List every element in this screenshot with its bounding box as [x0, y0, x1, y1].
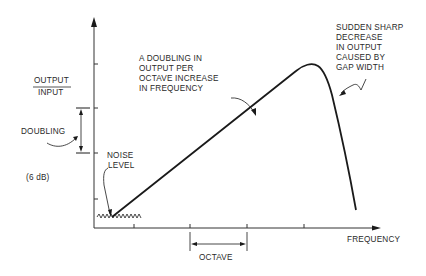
slope-pointer-arrow	[231, 98, 254, 112]
x-axis-arrow-icon	[372, 226, 381, 231]
noise-pointer-arrow	[104, 168, 110, 214]
arrow-up-icon	[79, 109, 83, 115]
gap-note-line1: SUDDEN SHARP	[336, 23, 403, 33]
gap-pointer-arrow	[341, 79, 366, 93]
y-axis-label-output: OUTPUT	[34, 76, 69, 86]
arrow-left-icon	[191, 242, 197, 246]
doubling-pointer-arrow	[47, 138, 76, 146]
arrow-head-icon	[339, 90, 346, 96]
y-axis-label-input: INPUT	[38, 88, 64, 98]
slope-note-line1: A DOUBLING IN	[139, 54, 202, 64]
noise-label-line1: NOISE	[107, 151, 133, 161]
gap-note-line2: DECREASE	[336, 33, 383, 43]
octave-label: OCTAVE	[199, 253, 233, 263]
gap-note-line3: IN OUTPUT	[336, 43, 382, 53]
x-axis-label: FREQUENCY	[347, 235, 400, 245]
gap-note-line4: CAUSED BY	[336, 53, 385, 63]
six-db-label: (6 dB)	[26, 173, 50, 183]
noise-level-zigzag	[97, 214, 141, 218]
arrow-right-icon	[240, 242, 246, 246]
slope-note-line4: IN FREQUENCY	[139, 84, 203, 94]
y-axis	[91, 17, 98, 228]
arrow-down-icon	[79, 146, 83, 152]
x-axis	[94, 224, 381, 231]
gap-note-line5: GAP WIDTH	[336, 63, 384, 73]
y-axis-arrow-icon	[91, 17, 97, 27]
noise-label-line2: LEVEL	[108, 161, 135, 171]
slope-note-line2: OUTPUT PER	[139, 64, 194, 74]
doubling-label: DOUBLING	[21, 127, 65, 137]
doubling-bracket	[76, 108, 90, 153]
octave-dimension	[190, 232, 247, 251]
slope-note-line3: OCTAVE INCREASE	[139, 74, 219, 84]
